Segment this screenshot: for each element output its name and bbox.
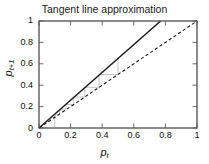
x-axis-label: pt [0, 146, 209, 158]
x-tick-label-0: 0 [27, 130, 51, 140]
y-tick-label-0_8: 0.8 [11, 37, 33, 47]
y-tick-label-1: 1 [11, 15, 33, 25]
x-axis-label-subscript: t [107, 151, 109, 160]
x-tick-label-0_6: 0.6 [122, 130, 146, 140]
chart-figure: Tangent line approximation [0, 0, 209, 164]
y-axis-label-subscript: t+1 [7, 60, 16, 71]
x-tick-label-0_8: 0.8 [153, 130, 177, 140]
x-tick-label-0_4: 0.4 [90, 130, 114, 140]
y-tick-label-0_4: 0.4 [11, 80, 33, 90]
x-tick-label-1: 1 [185, 130, 209, 140]
x-tick-label-0_2: 0.2 [59, 130, 83, 140]
y-tick-label-0_2: 0.2 [11, 101, 33, 111]
y-axis-label: pt+1 [2, 46, 14, 90]
